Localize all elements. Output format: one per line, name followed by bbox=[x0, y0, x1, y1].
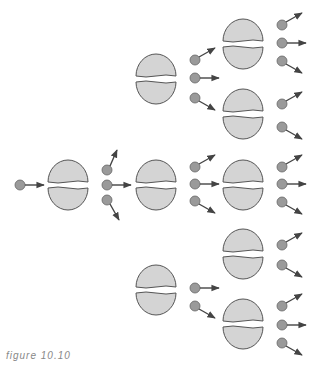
nuclei-gen3 bbox=[223, 19, 263, 349]
neutrons-gen1 bbox=[102, 150, 131, 220]
incident-neutron bbox=[15, 180, 44, 190]
chain-reaction-diagram bbox=[0, 0, 320, 366]
neutrons-gen2 bbox=[190, 48, 219, 318]
neutrons-gen3 bbox=[277, 13, 306, 355]
nuclei-gen2 bbox=[136, 54, 176, 315]
figure-caption: figure 10.10 bbox=[6, 350, 71, 361]
nucleus-gen1 bbox=[48, 160, 88, 210]
